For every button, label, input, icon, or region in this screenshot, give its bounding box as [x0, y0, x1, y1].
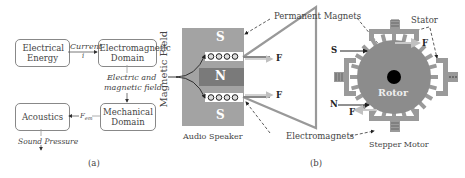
- motor-force-bottom: F: [349, 107, 355, 117]
- caption-b: (b): [310, 158, 322, 168]
- label-permanent-magnets: Permanent Magnets: [274, 11, 361, 21]
- motor-pole-n: N: [330, 99, 338, 109]
- speaker-magnet-assembly: [168, 28, 244, 126]
- speaker-title: Audio Speaker: [183, 132, 242, 141]
- label-stator: Stator: [411, 15, 438, 25]
- force-label-bottom: F: [276, 90, 282, 100]
- speaker-cone: [243, 7, 316, 128]
- motor-pole-s: S: [331, 45, 337, 55]
- pole-s-top: S: [216, 30, 225, 44]
- force-label-top: F: [276, 53, 282, 63]
- pole-s-bottom: S: [216, 108, 225, 122]
- label-magnetic-field: Magnetic Field: [158, 38, 169, 108]
- pole-n: N: [215, 69, 226, 83]
- label-electromagnets: Electromagnets: [286, 131, 354, 141]
- motor-title: Stepper Motor: [369, 140, 429, 149]
- rotor-label: Rotor: [378, 87, 408, 98]
- motor-force-top: F: [422, 38, 428, 48]
